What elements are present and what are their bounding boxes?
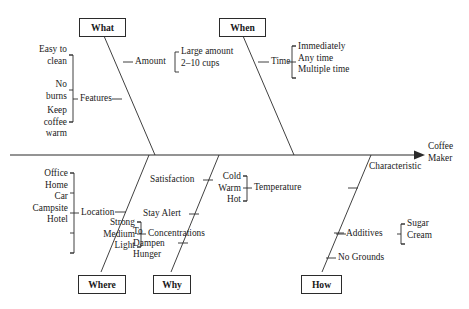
- category-box-what[interactable]: What: [79, 18, 126, 37]
- bracket-amount: [175, 52, 179, 72]
- branch-label-characteristic: Characteristic: [369, 161, 421, 173]
- fishbone-diagram: Coffee Maker What When Where Why How Amo…: [0, 0, 469, 309]
- bracket-additives: [397, 224, 405, 244]
- bracket-features: [69, 55, 78, 122]
- effect-label: Coffee Maker: [428, 141, 453, 164]
- sub-label-time-items: Immediately Any time Multiple time: [298, 41, 350, 76]
- bracket-temperature-shape: [243, 176, 247, 201]
- branch-label-no-grounds: No Grounds: [338, 252, 384, 264]
- sub-label-additives-items: Sugar Cream: [407, 218, 432, 241]
- diagram-lines: [0, 0, 469, 309]
- sub-label-features-1: Easy to clean: [8, 44, 67, 67]
- bracket-amount-shape: [175, 52, 179, 72]
- bracket-features-shape: [69, 55, 73, 122]
- category-box-where[interactable]: Where: [78, 275, 126, 294]
- bone-when: [243, 36, 294, 155]
- bracket-additives-shape: [401, 224, 405, 244]
- branch-label-features: Features: [80, 93, 112, 105]
- category-box-why[interactable]: Why: [153, 275, 191, 294]
- sub-label-temperature-items: Cold Warm Hot: [205, 171, 241, 206]
- branch-label-stay-alert: Stay Alert: [143, 208, 181, 220]
- branch-label-concentrations: Concentrations: [148, 228, 205, 240]
- category-box-when[interactable]: When: [219, 18, 266, 37]
- branch-label-satisfaction: Satisfaction: [150, 174, 195, 186]
- bracket-location: [70, 173, 79, 253]
- sub-label-large-amount: Large amount 2–10 cups: [181, 46, 233, 69]
- branch-label-additives: Additives: [346, 228, 383, 240]
- bracket-temperature: [243, 176, 252, 201]
- sub-label-features-2: No burns: [8, 79, 67, 102]
- branch-label-amount: Amount: [135, 56, 166, 68]
- branch-label-time: Time: [271, 56, 291, 68]
- bone-when-line: [243, 36, 294, 155]
- sub-label-location-items: Office Home Car Campsite Hotel: [4, 168, 68, 226]
- category-box-how[interactable]: How: [301, 275, 342, 294]
- sub-label-features-3: Keep coffee warm: [8, 105, 67, 140]
- sub-label-concentrations-items: Strong Medium Light: [88, 217, 135, 252]
- branch-label-temperature: Temperature: [254, 182, 301, 194]
- spine-arrowhead: [414, 151, 425, 160]
